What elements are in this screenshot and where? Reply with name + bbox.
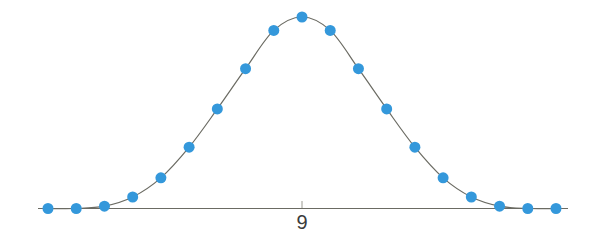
data-point-group (43, 12, 562, 215)
data-point-marker (43, 203, 54, 214)
data-point-marker (438, 172, 449, 183)
data-point-marker (353, 63, 364, 74)
data-point-marker (71, 203, 82, 214)
data-point-marker (268, 25, 279, 36)
distribution-curve (48, 17, 556, 209)
data-point-marker (522, 203, 533, 214)
x-axis-tick-label: 9 (296, 212, 307, 232)
data-point-marker (381, 103, 392, 114)
data-point-marker (127, 192, 138, 203)
data-point-marker (240, 63, 251, 74)
data-point-marker (212, 103, 223, 114)
data-point-marker (155, 172, 166, 183)
data-point-marker (325, 25, 336, 36)
data-point-marker (466, 192, 477, 203)
bell-curve-chart: 9 (0, 0, 595, 248)
data-point-marker (297, 12, 308, 23)
data-point-marker (409, 142, 420, 153)
data-point-marker (99, 201, 110, 212)
data-point-marker (494, 201, 505, 212)
data-point-marker (184, 142, 195, 153)
data-point-marker (551, 203, 562, 214)
